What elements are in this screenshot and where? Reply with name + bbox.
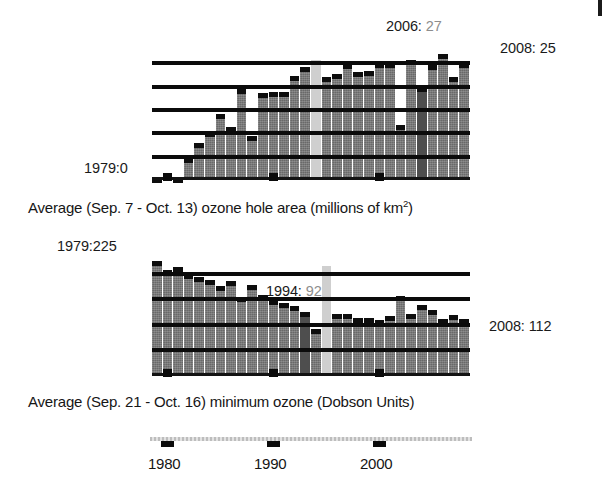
bar-cap bbox=[290, 306, 300, 311]
bar-1981 bbox=[173, 267, 183, 376]
bar-cap bbox=[269, 92, 279, 97]
x-tick-label-1980: 1980 bbox=[148, 455, 181, 472]
bar-cap bbox=[279, 303, 289, 308]
annotation-1994-ozone: 1994: 92 bbox=[266, 283, 322, 299]
bar-cap bbox=[300, 312, 310, 317]
bar-2002 bbox=[396, 296, 406, 376]
bar-cap bbox=[247, 285, 257, 290]
bar-1992 bbox=[290, 306, 300, 376]
bar-2006 bbox=[438, 54, 448, 180]
bar-cap bbox=[396, 125, 406, 130]
bar-2004 bbox=[417, 305, 427, 376]
gridline-5 bbox=[152, 155, 470, 159]
bar-2005 bbox=[428, 65, 438, 180]
bar-1993 bbox=[300, 67, 310, 180]
bar-cap bbox=[385, 316, 395, 321]
bar-cap bbox=[311, 329, 321, 334]
bar-cap bbox=[258, 93, 268, 98]
bar-cap bbox=[438, 54, 448, 59]
bar-2001 bbox=[385, 63, 395, 180]
bar-cap bbox=[247, 136, 257, 141]
bar-1992 bbox=[290, 76, 300, 180]
bar-cap bbox=[449, 77, 459, 82]
bar-1983 bbox=[194, 143, 204, 180]
annotation-1979-area: 1979:0 bbox=[84, 160, 128, 176]
bar-cap bbox=[406, 314, 416, 319]
bar-cap bbox=[194, 143, 204, 148]
x-axis-line bbox=[150, 437, 472, 441]
bar-cap bbox=[322, 77, 332, 82]
baseline-marker-1980 bbox=[163, 369, 173, 377]
bar-cap bbox=[279, 92, 289, 97]
annotation-2006-area: 2006: 27 bbox=[386, 18, 442, 34]
bar-cap bbox=[205, 280, 215, 285]
bar-1985 bbox=[216, 114, 226, 180]
baseline-marker-2000 bbox=[375, 173, 385, 181]
bar-cap bbox=[417, 305, 427, 310]
gridline-20 bbox=[152, 85, 470, 89]
bar-2003 bbox=[406, 60, 416, 180]
bar-1999 bbox=[364, 318, 374, 376]
bar-1990 bbox=[269, 300, 279, 376]
bar-cap bbox=[216, 286, 226, 291]
bar-cap bbox=[364, 71, 374, 76]
bar-2008 bbox=[459, 319, 469, 376]
bar-cap bbox=[300, 67, 310, 72]
bar-cap bbox=[194, 277, 204, 282]
bar-cap bbox=[216, 114, 226, 119]
caption-minimum-ozone: Average (Sep. 21 - Oct. 16) minimum ozon… bbox=[28, 393, 414, 410]
gridline-25 bbox=[152, 61, 470, 65]
bar-1979 bbox=[152, 261, 162, 376]
baseline-marker-1990 bbox=[269, 369, 279, 377]
baseline-marker-1980 bbox=[163, 173, 173, 181]
bar-2008 bbox=[459, 63, 469, 180]
x-tick-1980 bbox=[161, 441, 174, 447]
x-tick-label-1990: 1990 bbox=[254, 455, 287, 472]
bar-1991 bbox=[279, 303, 289, 376]
x-tick-label-2000: 2000 bbox=[360, 455, 393, 472]
bar-1997 bbox=[343, 64, 353, 180]
bar-1994 bbox=[311, 329, 321, 376]
bar-cap bbox=[226, 281, 236, 286]
baseline bbox=[152, 373, 470, 376]
bar-1984 bbox=[205, 280, 215, 376]
caption-ozone-hole-area: Average (Sep. 7 - Oct. 13) ozone hole ar… bbox=[28, 198, 413, 216]
gridline-10 bbox=[152, 131, 470, 135]
bar-cap bbox=[332, 314, 342, 319]
bar-cap bbox=[152, 261, 162, 266]
bar-1995 bbox=[322, 266, 332, 376]
bar-2000 bbox=[375, 63, 385, 180]
baseline-marker-1990 bbox=[269, 173, 279, 181]
bar-2005 bbox=[428, 310, 438, 376]
figure-canvas: 1979:0 2006: 27 2008: 25 Average (Sep. 7… bbox=[0, 0, 611, 486]
chart-ozone-hole-area bbox=[152, 40, 470, 180]
x-tick-1990 bbox=[267, 441, 280, 447]
baseline-marker-2000 bbox=[375, 369, 385, 377]
gridline-100 bbox=[152, 323, 470, 327]
gridline-50 bbox=[152, 348, 470, 352]
annotation-2008-ozone: 2008: 112 bbox=[489, 318, 552, 334]
bar-1986 bbox=[226, 281, 236, 376]
bar-1996 bbox=[332, 74, 342, 180]
x-tick-2000 bbox=[373, 441, 386, 447]
bar-1989 bbox=[258, 93, 268, 180]
bar-1991 bbox=[279, 92, 289, 180]
annotation-2008-area: 2008: 25 bbox=[500, 40, 556, 56]
chart-minimum-ozone bbox=[152, 248, 470, 376]
bar-cap bbox=[343, 314, 353, 319]
bar-cap bbox=[290, 76, 300, 81]
bar-cap bbox=[449, 315, 459, 320]
scan-mark-icon bbox=[598, 0, 602, 16]
bar-cap bbox=[353, 72, 363, 77]
bar-1993 bbox=[300, 312, 310, 377]
gridline-15 bbox=[152, 108, 470, 112]
bar-1989 bbox=[258, 295, 268, 376]
bar-cap bbox=[332, 74, 342, 79]
baseline bbox=[152, 177, 470, 180]
plot-area-bottom bbox=[152, 248, 470, 376]
bar-cap bbox=[237, 89, 247, 94]
bar-1990 bbox=[269, 92, 279, 180]
bar-2007 bbox=[449, 77, 459, 180]
bar-1994 bbox=[311, 60, 321, 180]
bar-cap bbox=[428, 65, 438, 70]
